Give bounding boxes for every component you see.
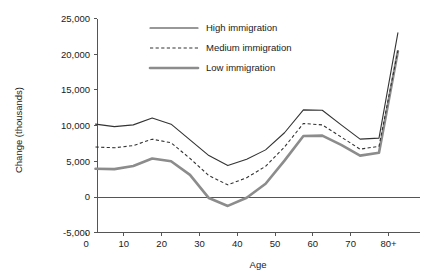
y-tick-label: 10,000 [61, 120, 90, 131]
y-tick-label: 20,000 [61, 49, 90, 60]
chart-legend: High immigrationMedium immigrationLow im… [150, 22, 292, 73]
x-tick-label: 20 [156, 238, 167, 249]
chart-container: -5,00005,00010,00015,00020,00025,000 010… [0, 0, 432, 275]
x-tick-label: 30 [194, 238, 205, 249]
line-chart: -5,00005,00010,00015,00020,00025,000 010… [0, 0, 432, 275]
x-tick-label: 70 [345, 238, 356, 249]
legend-label-medium: Medium immigration [206, 42, 292, 53]
y-tick-label: 5,000 [66, 156, 90, 167]
x-tick-label: 80+ [380, 238, 397, 249]
x-axis-title: Age [250, 259, 267, 270]
y-tick-label: 0 [85, 191, 90, 202]
data-series-group [95, 33, 397, 206]
y-axis-title: Change (thousands) [13, 87, 24, 173]
x-tick-label: 60 [308, 238, 319, 249]
y-tick-label: 25,000 [61, 13, 90, 24]
x-axis-ticks-group: 01020304050607080+ [83, 233, 397, 249]
legend-label-high: High immigration [206, 22, 277, 33]
series-line-low-immigration [95, 51, 397, 206]
y-tick-label: 15,000 [61, 84, 90, 95]
x-tick-label: 50 [270, 238, 281, 249]
legend-label-low: Low immigration [206, 62, 275, 73]
x-tick-label: 10 [119, 238, 130, 249]
x-tick-label: 40 [232, 238, 243, 249]
y-axis-ticks-group: -5,00005,00010,00015,00020,00025,000 [61, 13, 97, 238]
x-tick-label: 0 [83, 238, 88, 249]
y-tick-label: -5,000 [63, 227, 90, 238]
